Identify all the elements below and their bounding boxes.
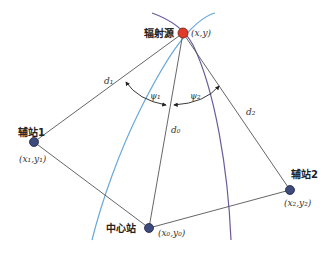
- aux2-coord: (x₂,y₂): [284, 198, 312, 208]
- hyperbola-blue-curve: [92, 13, 215, 240]
- psi1-label: ψ₁: [150, 91, 161, 101]
- center-coord: (x₀,y₀): [158, 228, 186, 238]
- center-node: [145, 224, 154, 233]
- line-d1: [34, 33, 183, 142]
- source-coord: (x,y): [191, 28, 212, 38]
- source-label: 辐射源: [144, 27, 174, 39]
- line-aux1-center: [34, 142, 149, 228]
- aux1-coord: (x₁,y₁): [19, 154, 47, 164]
- line-d2: [183, 33, 290, 190]
- center-label: 中心站: [106, 222, 136, 234]
- aux1-node: [30, 138, 39, 147]
- tdoa-diagram: 辐射源 (x,y) 辅站1 (x₁,y₁) 中心站 (x₀,y₀) 辅站2 (x…: [0, 0, 331, 254]
- psi2-label: ψ₂: [190, 91, 201, 101]
- aux2-label: 辅站2: [291, 168, 318, 180]
- aux2-node: [286, 186, 295, 195]
- aux1-label: 辅站1: [18, 126, 45, 138]
- source-node: [178, 28, 188, 38]
- d2-label: d₂: [246, 107, 256, 117]
- line-center-aux2: [149, 190, 290, 228]
- d1-label: d₁: [104, 76, 113, 86]
- d0-label: d₀: [171, 125, 181, 135]
